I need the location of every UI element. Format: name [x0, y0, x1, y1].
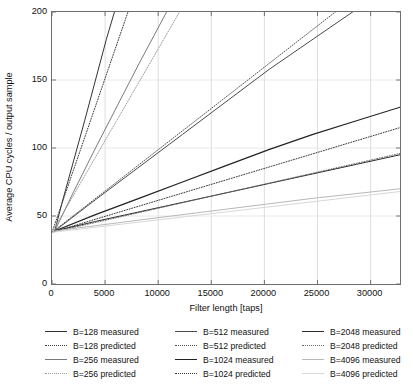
series-line — [52, 12, 400, 232]
legend-item[interactable]: B=128 predicted — [45, 339, 175, 353]
series-line — [52, 12, 400, 232]
legend-label: B=256 predicted — [73, 367, 136, 381]
series-line — [52, 128, 400, 233]
plot-svg — [52, 12, 400, 284]
series-line — [52, 12, 400, 232]
legend-item[interactable]: B=4096 measured — [302, 353, 413, 367]
legend-label: B=2048 measured — [330, 325, 400, 339]
chart-figure: Average CPU cycles / output sample 20015… — [0, 0, 413, 385]
x-axis-title: Filter length [taps] — [51, 303, 401, 313]
legend-item[interactable]: B=512 measured — [175, 325, 305, 339]
legend-line-swatch — [302, 373, 324, 374]
legend-item[interactable]: B=128 measured — [45, 325, 175, 339]
x-tick-label: 25000 — [287, 288, 347, 298]
y-tick-label: 0 — [7, 278, 47, 289]
legend: B=128 measuredB=128 predictedB=256 measu… — [30, 325, 413, 383]
legend-line-swatch — [175, 345, 197, 346]
legend-label: B=4096 measured — [330, 353, 400, 367]
legend-label: B=1024 measured — [203, 353, 273, 367]
x-tick-label: 15000 — [180, 288, 240, 298]
legend-item[interactable]: B=1024 predicted — [175, 367, 305, 381]
legend-line-swatch — [45, 345, 67, 346]
legend-line-swatch — [175, 373, 197, 374]
y-tick-label: 150 — [7, 74, 47, 85]
legend-line-swatch — [45, 373, 67, 374]
y-tick-label: 50 — [7, 210, 47, 221]
legend-item[interactable]: B=512 predicted — [175, 339, 305, 353]
x-tick-label: 5000 — [74, 288, 134, 298]
x-tick-label: 10000 — [127, 288, 187, 298]
legend-item[interactable]: B=4096 predicted — [302, 367, 413, 381]
legend-label: B=128 measured — [73, 325, 139, 339]
legend-label: B=4096 predicted — [330, 367, 398, 381]
legend-label: B=1024 predicted — [203, 367, 271, 381]
y-tick-label: 100 — [7, 142, 47, 153]
legend-label: B=256 measured — [73, 353, 139, 367]
legend-item[interactable]: B=256 predicted — [45, 367, 175, 381]
legend-item[interactable]: B=2048 predicted — [302, 339, 413, 353]
legend-line-swatch — [302, 359, 324, 360]
plot-area — [51, 11, 401, 285]
legend-line-swatch — [302, 331, 324, 332]
legend-item[interactable]: B=1024 measured — [175, 353, 305, 367]
legend-column: B=512 measuredB=512 predictedB=1024 meas… — [175, 325, 305, 381]
x-tick-label: 20000 — [233, 288, 293, 298]
legend-label: B=2048 predicted — [330, 339, 398, 353]
legend-line-swatch — [45, 359, 67, 360]
x-tick-label: 30000 — [340, 288, 400, 298]
legend-line-swatch — [175, 331, 197, 332]
legend-line-swatch — [45, 331, 67, 332]
legend-item[interactable]: B=2048 measured — [302, 325, 413, 339]
legend-item[interactable]: B=256 measured — [45, 353, 175, 367]
legend-line-swatch — [302, 345, 324, 346]
legend-label: B=128 predicted — [73, 339, 136, 353]
x-tick-label: 0 — [21, 288, 81, 298]
legend-line-swatch — [175, 359, 197, 360]
legend-column: B=128 measuredB=128 predictedB=256 measu… — [45, 325, 175, 381]
y-tick-label: 200 — [7, 6, 47, 17]
legend-column: B=2048 measuredB=2048 predictedB=4096 me… — [302, 325, 413, 381]
legend-label: B=512 measured — [203, 325, 269, 339]
legend-label: B=512 predicted — [203, 339, 266, 353]
